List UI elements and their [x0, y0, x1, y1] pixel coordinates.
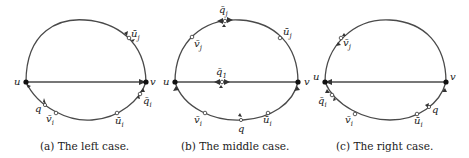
label-qi: q̄i: [318, 95, 327, 109]
diagram-right-case: u v v̄j q̄i v̄i ūi q: [310, 0, 469, 140]
diagram-middle-case: u v q̄j v̄j ūj q̄1 v̄i q ūi: [155, 0, 315, 140]
vertex-u: [23, 79, 28, 84]
vertex-v: [143, 79, 148, 84]
label-ui: ūi: [115, 115, 124, 129]
label-vj: v̄j: [194, 38, 203, 52]
caption-left-case: (a) The left case.: [40, 140, 129, 152]
panel-left-case: u v ūj q̄i q v̄i ūi (a) The left case.: [0, 0, 156, 158]
label-qi: q̄i: [143, 95, 152, 109]
panel-right-case: u v v̄j q̄i v̄i ūi q (c) The right case.: [310, 0, 466, 158]
label-q: q: [35, 103, 41, 114]
label-q1: q̄1: [216, 66, 227, 80]
label-vj: v̄j: [343, 37, 352, 51]
label-q: q: [238, 123, 244, 134]
label-u: u: [14, 76, 20, 87]
diagram-left-case: u v ūj q̄i q v̄i ūi: [0, 0, 156, 140]
label-q: q: [432, 104, 438, 115]
label-ui: ūi: [414, 115, 423, 129]
label-u: u: [163, 76, 169, 87]
label-vi: v̄i: [46, 113, 54, 127]
caption-right-case: (c) The right case.: [336, 140, 433, 152]
label-vi: v̄i: [194, 114, 202, 128]
label-qj: q̄j: [219, 4, 228, 18]
label-u: u: [313, 71, 319, 82]
label-v: v: [450, 71, 456, 82]
label-uj: ūj: [283, 26, 292, 40]
label-vi: v̄i: [345, 114, 353, 128]
panel-middle-case: u v q̄j v̄j ūj q̄1 v̄i q ūi (b) The midd…: [155, 0, 311, 158]
caption-middle-case: (b) The middle case.: [181, 140, 289, 152]
label-ui: ūi: [263, 114, 272, 128]
